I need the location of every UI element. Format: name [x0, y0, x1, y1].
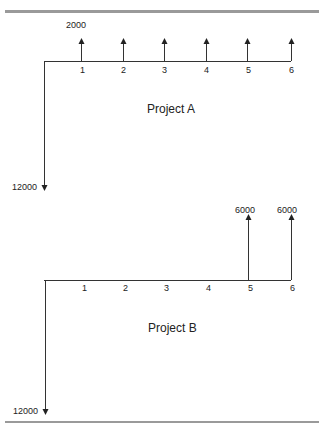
- project-a-inflow-arrows: [79, 38, 295, 61]
- period-label: 1: [80, 66, 85, 75]
- top-rule: [5, 10, 319, 13]
- period-label: 6: [290, 284, 295, 293]
- up-arrow-icon: [204, 38, 210, 44]
- period-label: 4: [206, 284, 211, 293]
- project-b-outflow-label: 12000: [13, 407, 38, 416]
- project-a-title: Project A: [147, 103, 195, 115]
- period-label: 3: [162, 66, 167, 75]
- down-arrow-icon: [42, 185, 48, 191]
- period-label: 4: [204, 66, 209, 75]
- up-arrow-icon: [289, 38, 295, 44]
- period-label: 5: [248, 284, 253, 293]
- period-label: 2: [121, 66, 126, 75]
- project-a-outflow-label: 12000: [12, 183, 37, 192]
- period-label: 1: [82, 284, 87, 293]
- down-arrow-icon: [43, 409, 49, 415]
- project-b-diagram: [43, 214, 295, 415]
- cash-flow-diagram: [0, 0, 319, 425]
- up-arrow-icon: [79, 38, 85, 44]
- bottom-rule: [5, 421, 319, 423]
- project-b-inflow-label: 6000: [235, 206, 255, 215]
- period-label: 2: [123, 284, 128, 293]
- project-b-title: Project B: [148, 322, 197, 334]
- up-arrow-icon: [121, 38, 127, 44]
- project-b-inflow-label: 6000: [277, 206, 297, 215]
- project-a-inflow-label: 2000: [66, 21, 86, 30]
- period-label: 5: [246, 66, 251, 75]
- up-arrow-icon: [162, 38, 168, 44]
- period-label: 6: [289, 66, 294, 75]
- up-arrow-icon: [245, 38, 251, 44]
- project-b-inflow-arrows: [246, 214, 295, 280]
- period-label: 3: [164, 284, 169, 293]
